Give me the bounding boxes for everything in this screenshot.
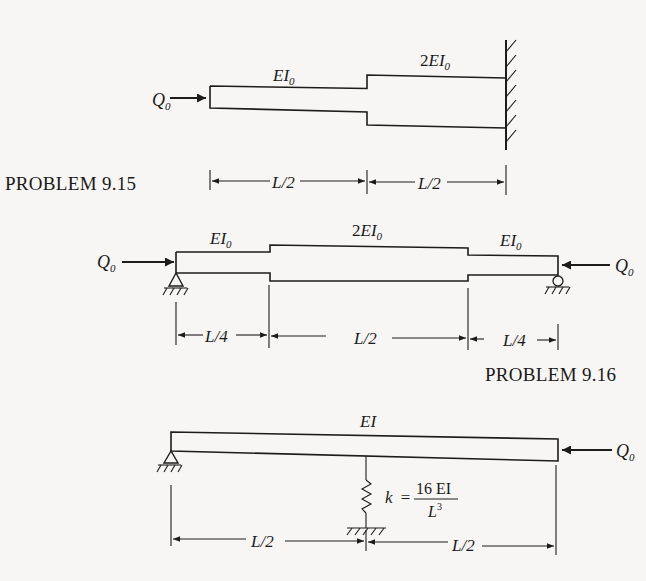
stiffness-label-ei0: EI0 [272,66,295,87]
svg-text:k =: k = [385,488,410,507]
spring-supported-beam: EI Q0 k = [157,412,635,555]
stiffness-label-2ei0: 2EI0 [352,221,383,242]
svg-text:L/2: L/2 [250,532,274,551]
pin-support-icon [163,273,188,295]
beam-diagrams-figure: Q0 EI0 2EI0 L/2 L/2 [0,0,646,581]
svg-text:Q0: Q0 [152,90,171,112]
svg-text:L/2: L/2 [271,173,295,192]
spring-icon [347,456,386,535]
svg-text:Q0: Q0 [97,252,116,274]
problem-9-16: Q0 Q0 EI0 2EI0 EI0 [97,221,634,350]
caption-problem-9-15: PROBLEM 9.15 [5,173,136,195]
load-q0-arrow-icon: Q0 [152,90,206,112]
svg-text:Q0: Q0 [615,256,634,278]
load-q0-arrow-icon: Q0 [562,441,635,463]
stepped-beam [176,245,558,281]
stiffness-label-2ei0: 2EI0 [420,51,451,72]
dimension-lines: L/4 L/2 L/4 [176,285,558,350]
svg-text:L/4: L/4 [502,331,526,350]
stiffness-label-ei0-right: EI0 [499,231,522,252]
problem-9-15: Q0 EI0 2EI0 L/2 L/2 [152,40,516,195]
uniform-beam [171,432,558,461]
svg-text:L/2: L/2 [353,329,377,348]
fixed-wall-icon [506,40,516,150]
roller-support-icon [545,276,570,294]
load-q0-left-arrow-icon: Q0 [97,252,174,274]
stepped-beam [210,75,506,128]
caption-problem-9-16: PROBLEM 9.16 [485,364,616,386]
svg-text:L/4: L/4 [204,327,228,346]
load-q0-right-arrow-icon: Q0 [562,256,634,278]
stiffness-label-ei0-left: EI0 [209,229,232,250]
dimension-lines: L/2 L/2 [210,165,506,195]
svg-text:16 EI: 16 EI [416,480,451,497]
pin-support-icon [157,451,182,472]
svg-text:Q0: Q0 [616,441,635,463]
svg-text:L3: L3 [427,501,442,520]
svg-text:L/2: L/2 [451,536,475,555]
spring-constant-label: k = 16 EI L3 [385,480,458,520]
svg-text:L/2: L/2 [417,174,441,193]
stiffness-label-ei: EI [359,412,377,431]
